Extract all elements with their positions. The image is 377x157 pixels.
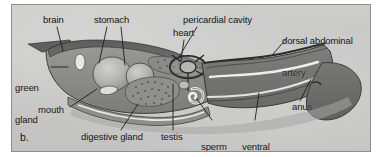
label-testis: testis — [161, 132, 183, 143]
label-ventral-nerve-cord: ventral nerve cord — [242, 121, 286, 152]
figure-root: brain stomach pericardial cavity heart d… — [0, 0, 377, 157]
label-anus: anus — [292, 102, 312, 113]
panel-letter: b. — [20, 131, 29, 143]
label-pericardial-cavity: pericardial cavity — [183, 15, 252, 26]
label-ventral-nerve-cord-line1: ventral — [242, 142, 286, 152]
organ-heart — [180, 61, 196, 73]
label-green-gland-line1: green — [15, 83, 39, 94]
label-sperm-duct: sperm duct — [201, 121, 227, 152]
label-brain: brain — [43, 15, 64, 26]
label-heart: heart — [173, 28, 194, 39]
label-green-gland-line2: gland — [15, 115, 39, 126]
label-sperm-duct-line1: sperm — [201, 142, 227, 152]
label-dorsal-abdominal-artery-line2: artery — [282, 68, 353, 79]
label-digestive-gland: digestive gland — [81, 132, 143, 143]
organ-testis — [179, 81, 189, 89]
label-dorsal-abdominal-artery-line1: dorsal abdominal — [282, 36, 353, 47]
label-dorsal-abdominal-artery: dorsal abdominal artery — [282, 15, 353, 99]
organ-green-gland — [75, 54, 85, 70]
label-stomach: stomach — [94, 15, 129, 26]
label-mouth: mouth — [38, 105, 64, 116]
anatomy-figure-panel: brain stomach pericardial cavity heart d… — [11, 4, 371, 152]
